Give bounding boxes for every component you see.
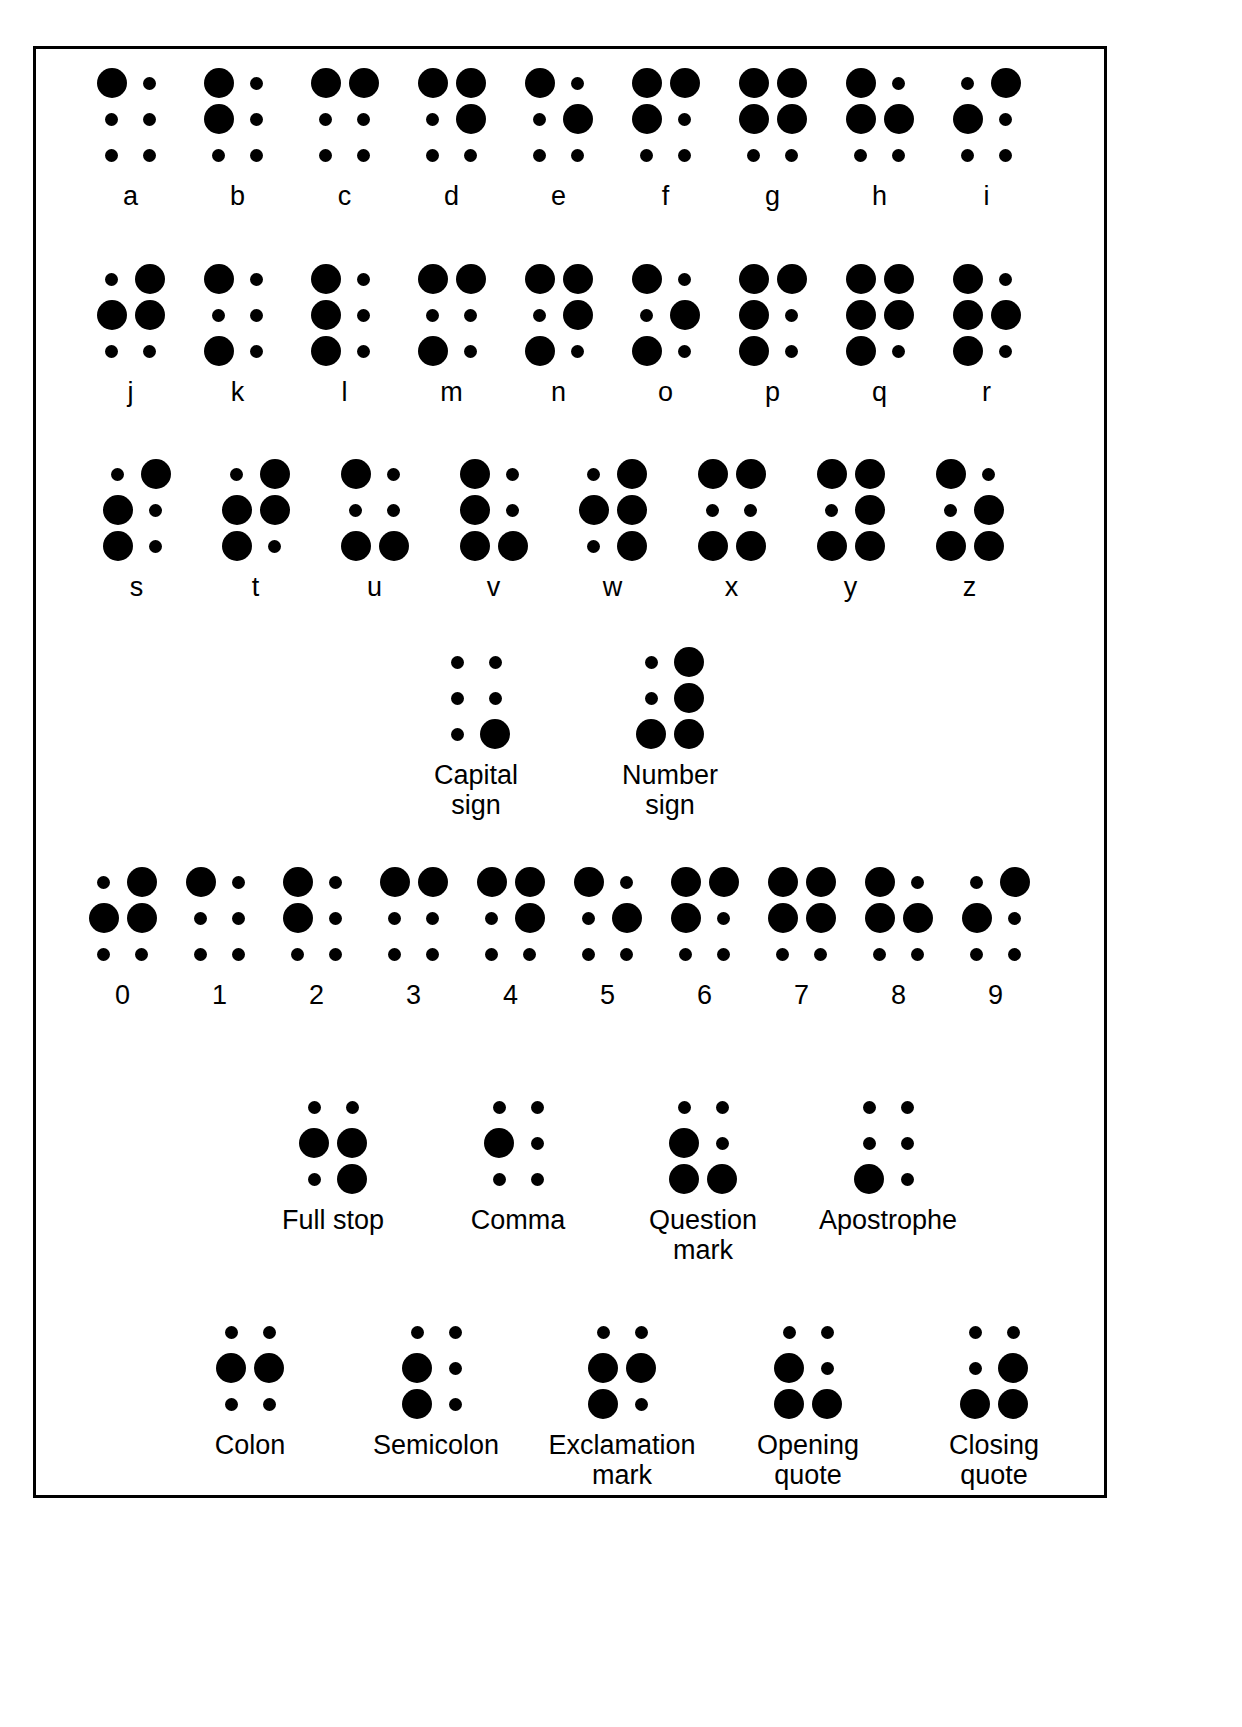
braille-dot-4-raised xyxy=(127,867,157,897)
braille-dot-6-empty xyxy=(1008,948,1021,961)
braille-dot-5-empty xyxy=(717,912,730,925)
braille-dot-2-empty xyxy=(349,504,362,517)
braille-dot-5-raised xyxy=(806,903,836,933)
braille-dot-3-raised xyxy=(418,336,448,366)
braille-dot-3-raised xyxy=(632,336,662,366)
braille-dot-grid xyxy=(438,644,514,752)
braille-dot-6-empty xyxy=(232,948,245,961)
braille-cell-h: h xyxy=(826,65,933,211)
braille-dot-4-empty xyxy=(571,77,584,90)
braille-cell-opening-quote: Opening quote xyxy=(734,1314,882,1490)
cell-row: abcdefghi xyxy=(36,65,1104,211)
braille-dot-1-empty xyxy=(308,1101,321,1114)
braille-dot-1-empty xyxy=(225,1326,238,1339)
braille-cell-label: Closing quote xyxy=(949,1430,1039,1490)
braille-dot-5-raised xyxy=(777,104,807,134)
braille-dot-6-empty xyxy=(635,1398,648,1411)
braille-dot-6-empty xyxy=(785,149,798,162)
braille-dot-1-raised xyxy=(525,68,555,98)
braille-dot-2-raised xyxy=(953,300,983,330)
braille-cell-label: y xyxy=(844,572,858,602)
braille-dot-4-raised xyxy=(674,647,704,677)
braille-dot-5-raised xyxy=(998,1353,1028,1383)
braille-dot-2-raised xyxy=(222,495,252,525)
braille-dot-4-empty xyxy=(387,468,400,481)
braille-cell-capital-sign: Capital sign xyxy=(411,644,541,820)
braille-dot-1-empty xyxy=(645,656,658,669)
braille-dot-6-empty xyxy=(263,1398,276,1411)
braille-dot-5-empty xyxy=(744,504,757,517)
braille-dot-grid xyxy=(182,864,258,972)
braille-dot-grid xyxy=(414,261,490,369)
braille-cell-u: u xyxy=(315,456,434,602)
braille-dot-1-empty xyxy=(961,77,974,90)
braille-dot-4-empty xyxy=(1007,1326,1020,1339)
braille-dot-6-empty xyxy=(892,345,905,358)
cell-row: ColonSemicolonExclamation markOpening qu… xyxy=(36,1314,1104,1490)
braille-dot-5-raised xyxy=(670,300,700,330)
braille-dot-1-raised xyxy=(574,867,604,897)
braille-cell-label: k xyxy=(231,377,245,407)
braille-dot-grid xyxy=(93,65,169,173)
braille-dot-2-empty xyxy=(426,113,439,126)
braille-dot-3-raised xyxy=(739,336,769,366)
braille-dot-1-raised xyxy=(671,867,701,897)
braille-dot-3-empty xyxy=(533,149,546,162)
braille-cell-label: Exclamation mark xyxy=(548,1430,695,1490)
section-letters-row-2: jklmnopqr xyxy=(36,261,1104,407)
braille-dot-3-empty xyxy=(426,149,439,162)
braille-dot-3-empty xyxy=(291,948,304,961)
section-letters-row-3: stuvwxyz xyxy=(36,456,1104,602)
braille-cell-b: b xyxy=(184,65,291,211)
braille-dot-4-empty xyxy=(357,273,370,286)
braille-dot-3-raised xyxy=(774,1389,804,1419)
braille-dot-2-empty xyxy=(944,504,957,517)
braille-dot-1-raised xyxy=(953,264,983,294)
section-indicator-signs: Capital signNumber sign xyxy=(36,644,1104,820)
braille-dot-2-empty xyxy=(825,504,838,517)
braille-chart-frame: abcdefghi jklmnopqr stuvwxyz Capital sig… xyxy=(33,46,1107,1498)
braille-dot-grid xyxy=(99,456,175,564)
braille-cell-label: d xyxy=(444,181,459,211)
braille-dot-5-empty xyxy=(785,309,798,322)
braille-dot-2-empty xyxy=(105,113,118,126)
braille-dot-grid xyxy=(307,261,383,369)
braille-dot-5-empty xyxy=(678,113,691,126)
braille-dot-3-raised xyxy=(698,531,728,561)
braille-dot-grid xyxy=(279,864,355,972)
section-punctuation-row-1: Full stopCommaQuestion markApostrophe xyxy=(36,1089,1104,1265)
braille-dot-4-empty xyxy=(892,77,905,90)
braille-dot-6-empty xyxy=(911,948,924,961)
braille-dot-3-empty xyxy=(485,948,498,961)
braille-dot-6-empty xyxy=(464,149,477,162)
braille-dot-6-raised xyxy=(855,531,885,561)
braille-dot-4-raised xyxy=(991,68,1021,98)
braille-dot-2-raised xyxy=(632,104,662,134)
braille-dot-2-empty xyxy=(319,113,332,126)
braille-cell-number-sign: Number sign xyxy=(605,644,735,820)
braille-cell-f: f xyxy=(612,65,719,211)
braille-dot-grid xyxy=(958,864,1034,972)
braille-dot-6-raised xyxy=(480,719,510,749)
braille-dot-6-empty xyxy=(426,948,439,961)
braille-cell-label: 9 xyxy=(988,980,1003,1010)
braille-cell-comma: Comma xyxy=(453,1089,583,1235)
braille-dot-5-raised xyxy=(515,903,545,933)
braille-dot-4-empty xyxy=(263,1326,276,1339)
braille-dot-2-raised xyxy=(846,300,876,330)
braille-cell-label: g xyxy=(765,181,780,211)
braille-dot-5-raised xyxy=(135,300,165,330)
braille-dot-6-empty xyxy=(449,1398,462,1411)
braille-dot-4-raised xyxy=(141,459,171,489)
braille-dot-5-empty xyxy=(531,1137,544,1150)
braille-dot-4-raised xyxy=(260,459,290,489)
braille-dot-1-empty xyxy=(587,468,600,481)
braille-dot-4-empty xyxy=(716,1101,729,1114)
braille-dot-3-raised xyxy=(588,1389,618,1419)
braille-dot-4-empty xyxy=(678,273,691,286)
braille-dot-2-raised xyxy=(865,903,895,933)
braille-dot-6-empty xyxy=(999,345,1012,358)
braille-dot-4-raised xyxy=(709,867,739,897)
braille-dot-3-empty xyxy=(961,149,974,162)
braille-dot-3-raised xyxy=(341,531,371,561)
